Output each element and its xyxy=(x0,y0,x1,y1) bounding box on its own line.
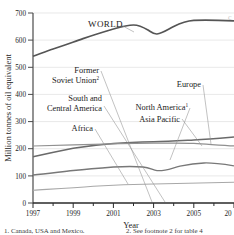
line-chart: 700 600 500 400 300 200 100 0 Million to… xyxy=(0,0,234,235)
series-label-south-central-america-line1: South and xyxy=(68,94,103,103)
y-tick-label-400: 400 xyxy=(15,91,26,99)
x-tick-label-2005: 2005 xyxy=(187,210,202,218)
y-tick-label-500: 500 xyxy=(15,64,26,72)
footnote-2: 2. See footnote 2 for table 4 xyxy=(126,227,203,234)
y-axis-ticks xyxy=(28,13,33,203)
y-tick-label-100: 100 xyxy=(15,173,26,181)
x-tick-label-1997: 1997 xyxy=(26,210,41,218)
x-tick-label-1999: 1999 xyxy=(66,210,81,218)
y-tick-label-600: 600 xyxy=(15,37,26,45)
y-tick-label-700: 700 xyxy=(15,10,26,18)
x-tick-label-2007: 20 xyxy=(224,210,232,218)
series-label-former-soviet-union-line1: Former xyxy=(74,66,99,75)
y-axis-title: Million tonnes of oil equivalent xyxy=(3,54,13,162)
series-label-asia-pacific: Asia Pacific xyxy=(139,115,180,124)
chart-figure: 700 600 500 400 300 200 100 0 Million to… xyxy=(0,0,234,235)
x-tick-label-2003: 2003 xyxy=(146,210,161,218)
series-label-africa: Africa xyxy=(72,124,94,133)
y-tick-label-200: 200 xyxy=(15,145,26,153)
series-label-europe: Europe xyxy=(177,80,201,89)
footnote-1: 1. Canada, USA and Mexico. xyxy=(4,227,85,234)
x-tick-label-2001: 2001 xyxy=(106,210,121,218)
series-label-former-soviet-union-line2: Soviet Union2 xyxy=(52,75,99,85)
series-label-south-central-america-line2: Central America xyxy=(47,104,102,113)
y-tick-label-0: 0 xyxy=(22,200,26,208)
series-label-world: WORLD xyxy=(88,19,123,29)
corner-text-fragment: c xyxy=(228,13,232,22)
y-tick-label-300: 300 xyxy=(15,118,26,126)
series-label-north-america: North America1 xyxy=(135,102,188,112)
